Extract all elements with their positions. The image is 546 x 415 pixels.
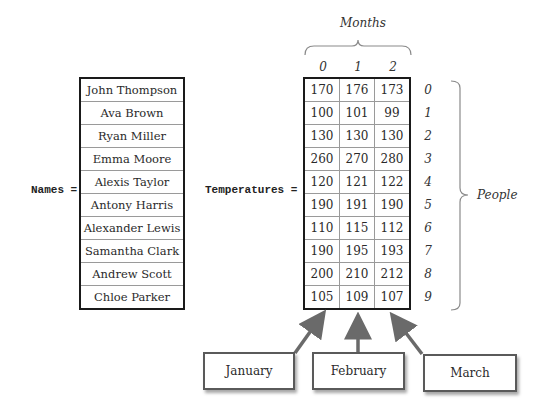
callout-january: January xyxy=(203,352,295,390)
arrow-march-icon xyxy=(396,320,422,354)
arrow-january-icon xyxy=(295,318,320,353)
callout-february: February xyxy=(312,352,405,390)
callout-march: March xyxy=(423,354,517,392)
